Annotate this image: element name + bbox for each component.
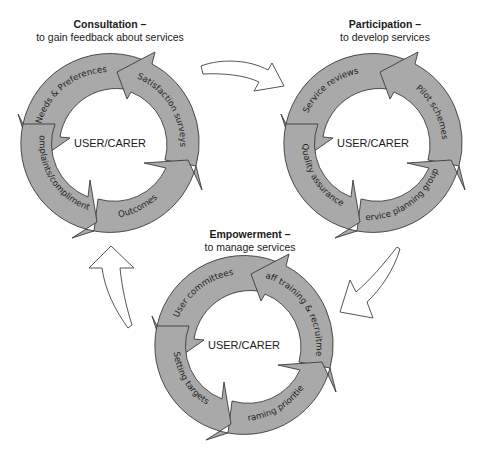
curved-arrow-up-icon [89, 246, 134, 328]
diagram-canvas: Needs & Preferences Satisfaction surveys… [0, 0, 482, 453]
consultation-center-label: USER/CARER [74, 137, 146, 149]
involvement-diagram: Consultation – to gain feedback about se… [0, 0, 482, 453]
consultation-cycle: Needs & Preferences Satisfaction surveys… [0, 0, 202, 238]
curved-arrow-down-left-icon [340, 247, 400, 318]
curved-arrow-right-icon [201, 61, 284, 91]
empowerment-center-label: USER/CARER [208, 339, 280, 351]
empowerment-cycle: User committees Staff training & recruit… [0, 0, 336, 440]
participation-center-label: USER/CARER [337, 137, 409, 149]
framing-priorities-segment [228, 362, 336, 434]
